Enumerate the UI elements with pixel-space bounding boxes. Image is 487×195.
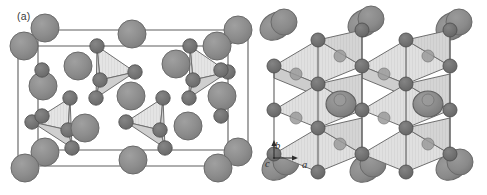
- axis-c-marker: [273, 157, 275, 159]
- axis-c-label: c: [265, 158, 270, 169]
- crystal-structure-figure: (a): [0, 0, 487, 195]
- panel-b-structure: [256, 0, 487, 195]
- axis-b-label: b: [275, 140, 280, 151]
- cation-spheres: [10, 14, 252, 182]
- panel-a: (a): [0, 0, 256, 195]
- axis-a-label: a: [302, 159, 307, 170]
- panel-b: (b): [256, 0, 487, 195]
- panel-a-structure: [0, 0, 256, 195]
